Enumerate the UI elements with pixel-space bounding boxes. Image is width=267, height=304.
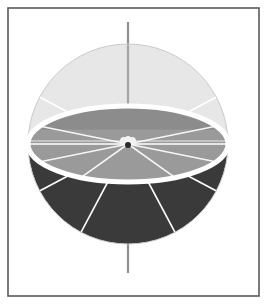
origin-highlight-top bbox=[125, 136, 131, 142]
origin-dot bbox=[125, 142, 131, 148]
sphere-diagram: Sphere with equatorial plane and meridia… bbox=[0, 0, 267, 304]
figure-container: Sphere with equatorial plane and meridia… bbox=[0, 0, 267, 304]
